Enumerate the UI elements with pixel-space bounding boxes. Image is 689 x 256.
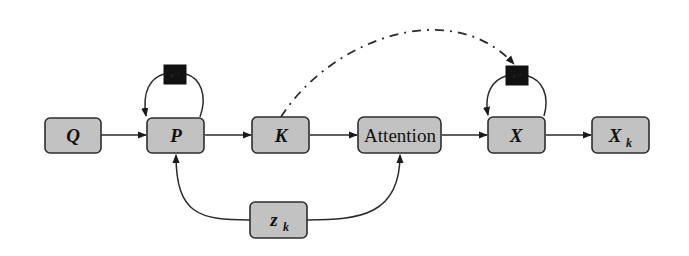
node-k-label: K (274, 125, 289, 146)
node-xk: X k (592, 117, 649, 153)
node-xk-label: X (608, 125, 623, 146)
node-p: P (147, 118, 204, 153)
node-zk-subscript: k (283, 220, 289, 234)
node-xk-subscript: k (626, 136, 632, 150)
node-x-label: X (509, 125, 524, 146)
x-delay-block: z⁻¹ (506, 66, 528, 85)
edge-k-to-x-delay-dashdot (281, 30, 514, 117)
node-attention-label: Attention (364, 125, 436, 146)
p-delay-block: z⁻¹ (164, 65, 186, 84)
node-p-label: P (169, 125, 182, 146)
p-delay-label: z⁻¹ (171, 71, 180, 79)
edge-zk-to-attention (307, 155, 400, 220)
node-q: Q (45, 118, 101, 153)
node-k: K (252, 117, 309, 153)
attention-flow-diagram: z⁻¹ z⁻¹ Q P K Attention X X k z k (0, 0, 689, 256)
node-zk: z k (250, 202, 307, 238)
edge-zk-to-p (176, 155, 250, 220)
node-attention: Attention (358, 117, 441, 153)
node-q-label: Q (66, 125, 80, 146)
node-zk-label: z (269, 209, 278, 230)
node-x: X (488, 117, 545, 153)
x-delay-label: z⁻¹ (513, 72, 522, 80)
